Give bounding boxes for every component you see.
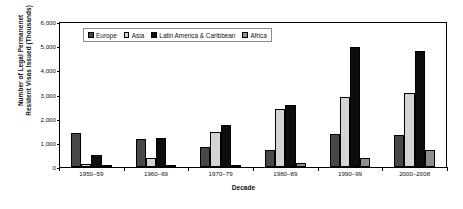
legend-swatch-icon — [124, 32, 130, 38]
y-axis-tick-label: 3,000 — [30, 91, 56, 98]
y-axis-title-line-1: Number of Legal Permanenet — [17, 0, 25, 140]
x-axis-tick-label: 2000–2008 — [399, 170, 430, 177]
plot-area — [59, 22, 447, 167]
bar — [296, 163, 306, 167]
y-axis-tick-labels: 01,0002,0003,0004,0005,0006,000 — [28, 0, 56, 209]
x-axis-tick-mark — [447, 167, 448, 171]
bar — [146, 158, 156, 167]
bar — [210, 132, 220, 167]
x-axis-tick-label: 1980–89 — [273, 170, 297, 177]
bar-chart-figure: Number of Legal Permanenet Resident Visa… — [0, 0, 463, 209]
y-axis-tick-label: 2,000 — [30, 115, 56, 122]
x-axis-tick-label: 1950–59 — [79, 170, 103, 177]
y-axis-tick-mark — [57, 23, 61, 24]
x-axis-tick-mark — [253, 167, 254, 171]
bar — [71, 133, 81, 167]
bar — [350, 47, 360, 167]
y-axis-tick-label: 4,000 — [30, 67, 56, 74]
bar-group — [200, 22, 241, 167]
y-axis-tick-mark — [57, 71, 61, 72]
bar — [81, 164, 91, 167]
y-axis-tick-mark — [57, 144, 61, 145]
bar — [275, 109, 285, 167]
y-axis-tick-label: 6,000 — [30, 19, 56, 26]
bar-group — [394, 22, 435, 167]
x-axis-title: Decade — [0, 184, 463, 191]
bar — [394, 135, 404, 167]
bar — [330, 134, 340, 167]
y-axis-tick-label: 1,000 — [30, 139, 56, 146]
bar — [425, 150, 435, 167]
x-axis-tick-mark — [59, 167, 60, 171]
bar-group — [265, 22, 306, 167]
bar — [166, 165, 176, 167]
bar — [404, 93, 414, 167]
bar — [136, 139, 146, 167]
x-axis-tick-mark — [188, 167, 189, 171]
bar — [91, 155, 101, 167]
bar — [415, 51, 425, 167]
bar — [221, 125, 231, 167]
bar-group — [136, 22, 177, 167]
y-axis-tick-mark — [57, 47, 61, 48]
bar — [156, 138, 166, 167]
x-axis-tick-label: 1960–69 — [144, 170, 168, 177]
y-axis-tick-label: 0 — [30, 164, 56, 171]
x-axis-tick-label: 1990–99 — [338, 170, 362, 177]
legend-item: Africa — [242, 32, 266, 39]
x-axis-tick-mark — [318, 167, 319, 171]
bar-group — [330, 22, 371, 167]
bar — [200, 147, 210, 167]
x-axis-tick-mark — [124, 167, 125, 171]
bar — [102, 165, 112, 167]
y-axis-tick-mark — [57, 96, 61, 97]
bar-group — [71, 22, 112, 167]
bar — [285, 105, 295, 167]
bar — [360, 158, 370, 167]
bar — [265, 150, 275, 167]
bar — [340, 97, 350, 167]
y-axis-tick-mark — [57, 120, 61, 121]
x-axis-tick-label: 1970–79 — [209, 170, 233, 177]
bar — [231, 165, 241, 167]
y-axis-tick-label: 5,000 — [30, 43, 56, 50]
legend-swatch-icon — [242, 32, 248, 38]
x-axis-tick-mark — [382, 167, 383, 171]
